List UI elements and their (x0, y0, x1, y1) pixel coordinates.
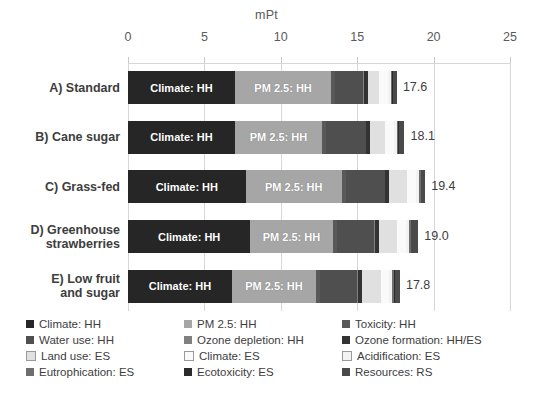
bar-segment: Climate: HH (128, 270, 232, 303)
legend-item[interactable]: PM 2.5: HH (184, 316, 256, 332)
bar-row: D) GreenhousestrawberriesClimate: HHPM 2… (0, 212, 533, 262)
chart-legend: Climate: HHPM 2.5: HHToxicity: HHWater u… (26, 316, 506, 380)
bar-segment: PM 2.5: HH (232, 270, 316, 303)
legend-item[interactable]: Toxicity: HH (342, 316, 416, 332)
legend-row: Climate: HHPM 2.5: HHToxicity: HH (26, 316, 506, 332)
legend-item-label: Toxicity: HH (355, 316, 416, 332)
bar-segment (411, 220, 418, 253)
bar-segment (326, 121, 366, 154)
x-tick-label: 10 (274, 30, 288, 44)
legend-row: Eutrophication: ESEcotoxicity: ESResourc… (26, 364, 506, 380)
legend-item[interactable]: Eutrophication: ES (26, 364, 134, 380)
legend-swatch-icon (184, 351, 194, 361)
x-tick-label: 20 (427, 30, 441, 44)
x-tick-label: 25 (503, 30, 517, 44)
legend-swatch-icon (184, 320, 192, 328)
bar-segment-label: Climate: HH (150, 82, 212, 94)
bar-row: C) Grass-fedClimate: HHPM 2.5: HH19.4 (0, 162, 533, 212)
stacked-bar-chart: mPt 0510152025 A) StandardClimate: HHPM … (0, 0, 533, 397)
bar-segment (397, 220, 406, 253)
legend-swatch-icon (184, 336, 192, 344)
stacked-bar: Climate: HHPM 2.5: HH (128, 270, 400, 303)
category-label-line: C) Grass-fed (4, 180, 120, 194)
legend-item-label: Ozone formation: HH/ES (355, 332, 482, 348)
legend-swatch-icon (26, 320, 34, 328)
bar-segment (379, 220, 397, 253)
bar-segment: PM 2.5: HH (246, 170, 342, 203)
bar-segment (337, 220, 374, 253)
legend-item-label: Climate: ES (199, 348, 260, 364)
bar-segment (393, 71, 397, 104)
legend-item[interactable]: Land use: ES (26, 348, 110, 364)
bar-segment (381, 270, 389, 303)
legend-swatch-icon (26, 351, 36, 361)
bar-segment (346, 170, 385, 203)
category-label-line: strawberries (4, 237, 120, 251)
bar-segment-label: Climate: HH (156, 181, 218, 193)
category-label: B) Cane sugar (4, 130, 120, 144)
category-label-line: B) Cane sugar (4, 130, 120, 144)
bar-segment-label: Climate: HH (149, 280, 211, 292)
legend-swatch-icon (342, 336, 350, 344)
legend-item[interactable]: Ozone formation: HH/ES (342, 332, 482, 348)
category-label-line: D) Greenhouse (4, 223, 120, 237)
bar-segment-label: PM 2.5: HH (263, 231, 320, 243)
bar-segment-label: Climate: HH (150, 131, 212, 143)
legend-item[interactable]: Acidification: ES (342, 348, 440, 364)
bar-segment (335, 71, 363, 104)
bar-segment: Climate: HH (128, 121, 235, 154)
bar-segment (385, 121, 394, 154)
legend-item[interactable]: Climate: HH (26, 316, 101, 332)
bar-total-label: 17.6 (403, 80, 427, 94)
category-label-line: E) Low fruit (4, 272, 120, 286)
legend-item-label: PM 2.5: HH (197, 316, 256, 332)
bar-segment: Climate: HH (128, 71, 235, 104)
bar-segment: PM 2.5: HH (250, 220, 333, 253)
x-tick-label: 0 (125, 30, 132, 44)
stacked-bar: Climate: HHPM 2.5: HH (128, 220, 418, 253)
legend-item[interactable]: Climate: ES (184, 348, 260, 364)
legend-item-label: Resources: RS (355, 364, 432, 380)
legend-swatch-icon (184, 368, 192, 376)
stacked-bar: Climate: HHPM 2.5: HH (128, 170, 425, 203)
legend-item[interactable]: Ecotoxicity: ES (184, 364, 274, 380)
legend-swatch-icon (342, 320, 350, 328)
legend-swatch-icon (342, 368, 350, 376)
bar-segment-label: Climate: HH (158, 231, 220, 243)
bar-segment (368, 71, 379, 104)
axis-title-mpt: mPt (0, 8, 533, 22)
bar-total-label: 19.0 (424, 229, 448, 243)
bar-total-label: 17.8 (406, 278, 430, 292)
bar-segment (399, 121, 404, 154)
category-label: C) Grass-fed (4, 180, 120, 194)
legend-swatch-icon (342, 351, 352, 361)
bar-row: B) Cane sugarClimate: HHPM 2.5: HH18.1 (0, 113, 533, 163)
category-label: A) Standard (4, 81, 120, 95)
bar-segment (362, 270, 381, 303)
legend-item-label: Ozone depletion: HH (197, 332, 304, 348)
legend-item-label: Acidification: ES (357, 348, 440, 364)
bar-segment (379, 71, 387, 104)
x-tick-label: 15 (350, 30, 364, 44)
x-tick-label: 5 (201, 30, 208, 44)
legend-swatch-icon (26, 368, 34, 376)
category-label: E) Low fruitand sugar (4, 272, 120, 300)
category-label-line: and sugar (4, 286, 120, 300)
legend-swatch-icon (26, 336, 34, 344)
bar-row: E) Low fruitand sugarClimate: HHPM 2.5: … (0, 261, 533, 311)
category-label-line: A) Standard (4, 81, 120, 95)
bar-segment: Climate: HH (128, 170, 246, 203)
legend-item[interactable]: Ozone depletion: HH (184, 332, 304, 348)
bar-segment-label: PM 2.5: HH (254, 82, 311, 94)
bar-row: A) StandardClimate: HHPM 2.5: HH17.6 (0, 63, 533, 113)
legend-item[interactable]: Resources: RS (342, 364, 432, 380)
category-label: D) Greenhousestrawberries (4, 223, 120, 251)
legend-item-label: Ecotoxicity: ES (197, 364, 274, 380)
bar-segment (370, 121, 385, 154)
bar-segment: Climate: HH (128, 220, 250, 253)
bar-total-label: 18.1 (411, 129, 435, 143)
legend-item[interactable]: Water use: HH (26, 332, 114, 348)
legend-item-label: Eutrophication: ES (39, 364, 134, 380)
bar-segment (395, 270, 400, 303)
bar-segment: PM 2.5: HH (235, 71, 331, 104)
